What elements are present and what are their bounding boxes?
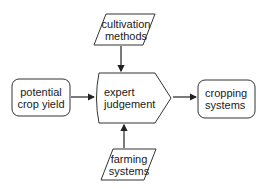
expert-judgement-label: expert judgement: [104, 86, 155, 110]
potential-crop-yield-label: potential crop yield: [12, 86, 70, 110]
label-line: expert: [104, 86, 155, 98]
label-line: crop yield: [12, 98, 70, 110]
cropping-systems-label: cropping systems: [205, 87, 247, 111]
label-line: systems: [103, 165, 155, 177]
label-line: systems: [205, 99, 247, 111]
label-line: farming: [103, 153, 155, 165]
cultivation-methods-label: cultivation methods: [100, 18, 152, 42]
label-line: cropping: [205, 87, 247, 99]
label-line: cultivation: [100, 18, 152, 30]
farming-systems-label: farming systems: [103, 153, 155, 177]
label-line: methods: [100, 30, 152, 42]
label-line: judgement: [104, 98, 155, 110]
label-line: potential: [12, 86, 70, 98]
